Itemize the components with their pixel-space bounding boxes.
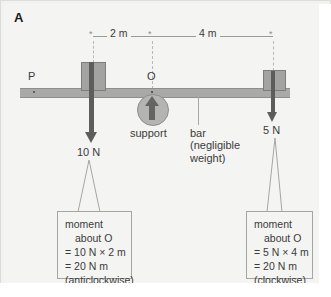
point-p-label: P xyxy=(28,70,35,82)
annotation-box-right: moment about O= 5 N × 4 m = 20 N m (cloc… xyxy=(246,211,313,279)
annotation-box-left: moment about O= 10 N × 2 m = 20 N m (ant… xyxy=(57,211,132,279)
bar-label-line2: (negligible xyxy=(190,139,240,151)
bar-label: bar (negligible weight) xyxy=(190,127,240,164)
page-edge-bottom xyxy=(0,283,331,297)
annotation-left-line4: = 20 N m xyxy=(65,260,108,272)
force-arrow-5n-head xyxy=(267,112,277,122)
bar-label-line3: weight) xyxy=(190,152,225,164)
dimension-label-2m: 2 m xyxy=(107,28,131,40)
page-edge-right xyxy=(319,4,331,297)
force-arrow-10n-shaft xyxy=(89,62,94,134)
annotation-right-line1: moment xyxy=(254,218,292,230)
annotation-left-line3: = 10 N × 2 m xyxy=(65,246,126,258)
annotation-right-line4: = 20 N m xyxy=(254,260,297,272)
support-label: support xyxy=(130,127,167,139)
support-arrow-shaft xyxy=(149,104,155,120)
dimension-label-4m: 4 m xyxy=(196,28,220,40)
panel-letter: A xyxy=(14,11,23,26)
extension-line-left xyxy=(93,41,95,63)
point-p-marker xyxy=(33,91,35,93)
figure-panel: A * * * 2 m 4 m P O 10 N 5 N support bar… xyxy=(0,0,331,297)
point-o-marker xyxy=(151,91,153,93)
annotation-pointer-right xyxy=(265,138,287,212)
extension-line-right xyxy=(273,41,275,71)
annotation-left-line2: about O xyxy=(65,231,125,245)
force-label-10n: 10 N xyxy=(77,146,100,158)
annotation-left-line1: moment xyxy=(65,218,103,230)
support-arrow-head-icon xyxy=(145,96,159,106)
bar-label-line1: bar xyxy=(190,127,206,139)
bar-leader-line xyxy=(198,96,199,125)
annotation-right-line2: about O xyxy=(254,231,306,245)
dimension-tick-middle: * xyxy=(148,30,152,39)
force-label-5n: 5 N xyxy=(263,124,280,136)
force-arrow-5n-shaft xyxy=(271,71,275,114)
annotation-right-line3: = 5 N × 4 m xyxy=(254,246,309,258)
point-o-label: O xyxy=(147,70,156,82)
annotation-pointer-left xyxy=(76,160,102,212)
dimension-tick-left: * xyxy=(89,30,93,39)
dimension-tick-right: * xyxy=(269,30,273,39)
force-arrow-10n-head xyxy=(85,132,97,143)
